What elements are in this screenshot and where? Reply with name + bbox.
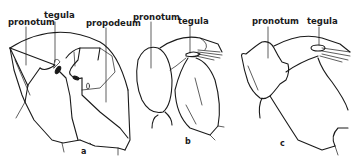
panel-c-drawing (242, 27, 351, 155)
panel-b-label-pronotum: pronotum (133, 13, 180, 22)
panel-c-label-tegula: tegula (307, 17, 338, 26)
thorax-diagram-figure: pronotum tegula propodeum a pronotum teg… (0, 0, 359, 165)
panel-a-drawing (10, 22, 130, 155)
panel-b-drawing (137, 22, 224, 140)
panel-b-label-tegula: tegula (178, 17, 209, 26)
panel-b-letter: b (185, 138, 191, 146)
panel-c-label-pronotum: pronotum (252, 17, 299, 26)
panel-a-letter: a (81, 148, 86, 156)
panel-a-label-tegula: tegula (44, 11, 75, 20)
panel-c-letter: c (280, 140, 285, 148)
